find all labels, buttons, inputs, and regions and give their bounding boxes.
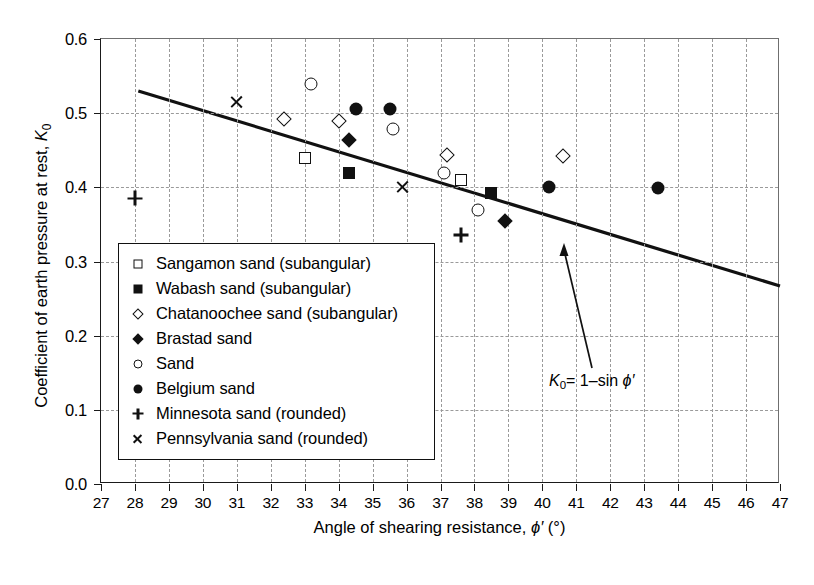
legend-item: Sangamon sand (subangular) [129, 251, 425, 276]
open-circle-icon [134, 359, 143, 368]
filled-square-icon [134, 284, 143, 293]
legend-marker-plus [129, 406, 149, 422]
plus-icon [133, 408, 144, 419]
legend-marker-open-circle [129, 356, 149, 372]
legend-label: Chatanoochee sand (subangular) [156, 304, 398, 323]
legend-item: Wabash sand (subangular) [129, 276, 425, 301]
legend-label: Minnesota sand (rounded) [156, 404, 346, 423]
open-square-icon [134, 259, 143, 268]
filled-diamond-icon [132, 333, 143, 344]
legend-label: Wabash sand (subangular) [156, 279, 351, 298]
legend-item: Pennsylvania sand (rounded) [129, 426, 425, 451]
figure: Coefficient of earth pressure at rest, K… [0, 0, 814, 585]
annotation-label: K0= 1–sin ϕ′ [549, 372, 634, 391]
legend-label: Belgium sand [156, 379, 255, 398]
legend-marker-filled-square [129, 281, 149, 297]
legend: Sangamon sand (subangular)Wabash sand (s… [118, 243, 435, 460]
legend-item: Minnesota sand (rounded) [129, 401, 425, 426]
legend-label: Sangamon sand (subangular) [156, 254, 371, 273]
cross-icon [133, 433, 144, 444]
legend-marker-open-square [129, 256, 149, 272]
legend-item: Brastad sand [129, 326, 425, 351]
legend-marker-filled-circle [129, 381, 149, 397]
open-diamond-icon [132, 308, 143, 319]
legend-marker-filled-diamond [129, 331, 149, 347]
legend-item: Chatanoochee sand (subangular) [129, 301, 425, 326]
legend-item: Sand [129, 351, 425, 376]
filled-circle-icon [134, 384, 143, 393]
legend-label: Sand [156, 354, 194, 373]
legend-marker-cross [129, 431, 149, 447]
legend-item: Belgium sand [129, 376, 425, 401]
legend-label: Brastad sand [156, 329, 252, 348]
legend-marker-open-diamond [129, 306, 149, 322]
legend-label: Pennsylvania sand (rounded) [156, 429, 368, 448]
